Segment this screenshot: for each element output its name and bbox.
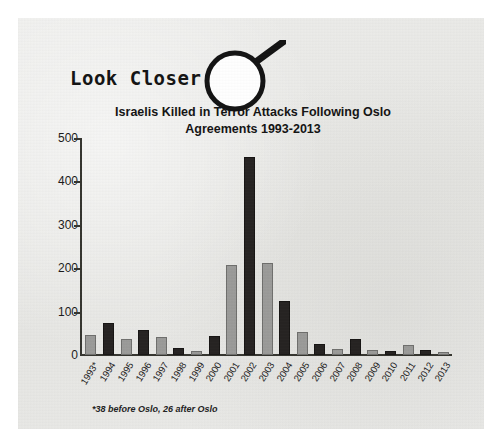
bar[interactable]: [367, 350, 378, 355]
x-tick-label: 2011: [397, 360, 417, 383]
x-tick-label: 1999: [186, 360, 206, 383]
y-tick-mark: [74, 312, 81, 314]
bar[interactable]: [297, 332, 308, 355]
x-tick-label: 2013: [432, 360, 452, 383]
x-label-slot: 2007: [329, 358, 347, 404]
bar-chart: 0100200300400500 1993*199419951996199719…: [18, 18, 484, 429]
bar-slot: [382, 138, 400, 355]
bar-slot: [153, 138, 171, 355]
x-tick-label: 1993*: [78, 360, 100, 386]
x-label-slot: 2013: [435, 358, 453, 404]
y-tick-mark: [74, 225, 81, 227]
x-tick-label: 1994: [97, 360, 117, 383]
bar-slot: [170, 138, 188, 355]
x-label-slot: 1994: [100, 358, 118, 404]
x-label-slot: 2000: [205, 358, 223, 404]
bar-slot: [311, 138, 329, 355]
bar-slot: [100, 138, 118, 355]
x-tick-label: 2004: [274, 360, 294, 383]
bar[interactable]: [191, 351, 202, 355]
bar[interactable]: [279, 301, 290, 355]
bar[interactable]: [226, 265, 237, 355]
bar-slot: [205, 138, 223, 355]
y-tick-label: 0: [71, 348, 78, 362]
bar[interactable]: [209, 336, 220, 355]
bar-slot: [82, 138, 100, 355]
bar[interactable]: [332, 349, 343, 355]
bar-slot: [329, 138, 347, 355]
x-label-slot: 2006: [311, 358, 329, 404]
chart-footnote: *38 before Oslo, 26 after Oslo: [92, 404, 218, 414]
bar-slot: [294, 138, 312, 355]
y-axis-labels: 0100200300400500: [44, 135, 78, 350]
x-label-slot: 2009: [364, 358, 382, 404]
bar[interactable]: [262, 263, 273, 355]
x-tick-label: 1995: [115, 360, 135, 383]
x-tick-label: 1996: [133, 360, 153, 383]
x-tick-label: 1998: [168, 360, 188, 383]
bar[interactable]: [244, 157, 255, 355]
bar[interactable]: [350, 339, 361, 355]
x-label-slot: 2008: [346, 358, 364, 404]
x-label-slot: 2004: [276, 358, 294, 404]
x-tick-label: 2010: [379, 360, 399, 383]
x-label-slot: 2001: [223, 358, 241, 404]
bar[interactable]: [121, 339, 132, 355]
x-label-slot: 2011: [399, 358, 417, 404]
x-tick-label: 2005: [291, 360, 311, 383]
x-tick-label: 2003: [256, 360, 276, 383]
x-label-slot: 2010: [382, 358, 400, 404]
x-label-slot: 1993*: [82, 358, 100, 404]
x-label-slot: 2002: [241, 358, 259, 404]
x-tick-label: 2006: [309, 360, 329, 383]
bar-slot: [399, 138, 417, 355]
bar-slot: [117, 138, 135, 355]
x-label-slot: 1998: [170, 358, 188, 404]
bar-series: [82, 138, 452, 355]
bar[interactable]: [85, 335, 96, 355]
bar-slot: [223, 138, 241, 355]
x-tick-label: 2000: [203, 360, 223, 383]
bar-slot: [188, 138, 206, 355]
bar-slot: [258, 138, 276, 355]
x-tick-label: 2002: [238, 360, 258, 383]
bar[interactable]: [138, 330, 149, 355]
x-label-slot: 2003: [258, 358, 276, 404]
x-label-slot: 1997: [153, 358, 171, 404]
x-label-slot: 2005: [294, 358, 312, 404]
x-tick-label: 2008: [344, 360, 364, 383]
bar-slot: [435, 138, 453, 355]
x-label-slot: 1999: [188, 358, 206, 404]
x-label-slot: 1996: [135, 358, 153, 404]
y-tick-mark: [74, 268, 81, 270]
bar-slot: [276, 138, 294, 355]
x-tick-label: 2009: [362, 360, 382, 383]
y-tick-mark: [74, 181, 81, 183]
x-axis-labels: 1993*19941995199619971998199920002001200…: [82, 358, 452, 404]
bar[interactable]: [403, 345, 414, 355]
x-tick-label: 2001: [221, 360, 241, 383]
x-label-slot: 1995: [117, 358, 135, 404]
bar-slot: [364, 138, 382, 355]
bar[interactable]: [103, 323, 114, 355]
bar-slot: [417, 138, 435, 355]
x-tick-label: 2007: [327, 360, 347, 383]
bar-slot: [241, 138, 259, 355]
y-tick-mark: [74, 138, 81, 140]
poster-page: Look Closer Israelis Killed in Terror At…: [18, 18, 484, 429]
x-tick-label: 1997: [150, 360, 170, 383]
bar[interactable]: [385, 351, 396, 355]
bar[interactable]: [173, 348, 184, 355]
x-label-slot: 2012: [417, 358, 435, 404]
bar[interactable]: [314, 344, 325, 355]
bar-slot: [346, 138, 364, 355]
bar[interactable]: [420, 350, 431, 355]
bar[interactable]: [438, 352, 449, 355]
bar[interactable]: [156, 337, 167, 355]
x-tick-label: 2012: [415, 360, 435, 383]
bar-slot: [135, 138, 153, 355]
